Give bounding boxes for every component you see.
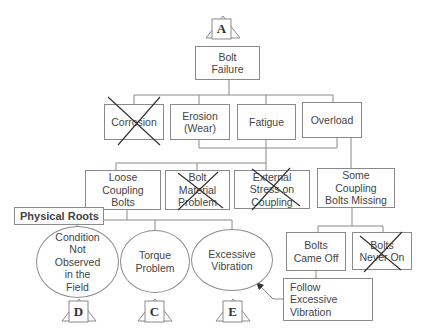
fault-tree-diagram: A D C E Bolt Failure Corrosion Erosion (… [0,0,423,334]
eliminated-marks [0,0,423,334]
x-mark-icon [360,232,402,272]
x-mark-icon [178,172,223,210]
x-mark-icon [252,168,300,210]
x-mark-icon [108,97,160,145]
